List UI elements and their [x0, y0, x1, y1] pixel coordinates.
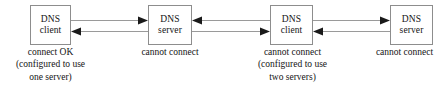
node-3-label-line2: client [281, 25, 303, 37]
caption-node-4: cannot connect [362, 46, 447, 58]
caption-node-1: connect OK (configured to use one server… [1, 46, 100, 83]
caption-node-4-status: cannot connect [362, 46, 447, 58]
caption-node-3: cannot connect (configured to use two se… [243, 46, 342, 83]
node-4-label-line2: server [400, 25, 424, 37]
caption-node-1-status: connect OK [1, 46, 100, 58]
caption-node-1-note-line2: one server) [1, 71, 100, 83]
caption-node-3-note-line1: (configured to use [243, 58, 342, 70]
node-3-label-line1: DNS [282, 14, 301, 26]
dns-connectivity-diagram: DNS client connect OK (configured to use… [0, 0, 447, 91]
edge-1-top-arrowhead-icon [138, 17, 148, 25]
caption-node-3-note-line2: two servers) [243, 71, 342, 83]
caption-node-3-status: cannot connect [243, 46, 342, 58]
node-dns-client-1: DNS client [30, 5, 71, 45]
node-1-label-line1: DNS [41, 14, 60, 26]
edge-3-top-arrowhead-icon [380, 17, 390, 25]
node-2-label-line1: DNS [160, 14, 179, 26]
node-1-label-line2: client [40, 25, 62, 37]
caption-node-1-note-line1: (configured to use [1, 58, 100, 70]
node-dns-server-4: DNS server [390, 5, 433, 45]
node-dns-client-3: DNS client [270, 5, 313, 45]
edge-2-top-arrowhead-icon [192, 17, 202, 25]
caption-node-2-status: cannot connect [124, 46, 216, 58]
edge-2-bottom-arrowhead-icon [260, 28, 270, 36]
node-2-label-line2: server [158, 25, 182, 37]
edge-3-bottom-arrowhead-icon [313, 28, 323, 36]
node-4-label-line1: DNS [402, 14, 421, 26]
edge-1-bottom-arrowhead-icon [71, 28, 81, 36]
caption-node-2: cannot connect [124, 46, 216, 58]
node-dns-server-2: DNS server [148, 5, 192, 45]
